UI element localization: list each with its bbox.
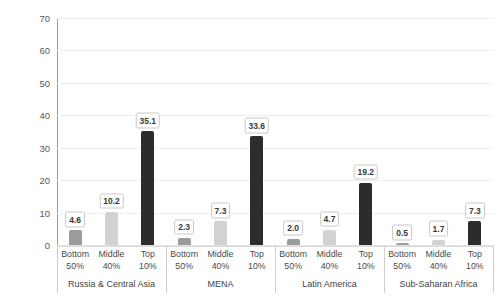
category-tick-line: 10% [357,261,375,273]
y-tick-label: 50 [16,77,50,88]
category-tick-line: Top [139,249,157,261]
category-tick-line: Top [466,249,484,261]
category-tick-label: Top10% [139,249,157,272]
bar-value-label: 1.7 [429,221,449,237]
category-tick-line: Middle [208,249,234,261]
category-tick-label: Top10% [466,249,484,272]
category-tick-line: 50% [170,261,198,273]
bar [69,230,82,245]
category-tick-label: Top10% [248,249,266,272]
y-tick-label: 40 [16,110,50,121]
group-label: Sub-Saharan Africa [399,279,477,289]
group-label: Russia & Central Asia [68,279,155,289]
bar-value-label: 4.7 [320,211,340,227]
category-tick-line: 10% [248,261,266,273]
group-label: MENA [207,279,233,289]
category-tick-label: Middle40% [426,249,452,272]
bar [359,183,372,245]
category-tick-line: 50% [388,261,416,273]
category-tick-label: Bottom50% [388,249,416,272]
bar-value-label: 7.3 [465,203,485,219]
category-tick-line: 40% [317,261,343,273]
category-tick-line: 10% [139,261,157,273]
category-tick-label: Middle40% [208,249,234,272]
category-tick-line: 50% [279,261,307,273]
bar [250,136,263,245]
category-tick-label: Bottom50% [279,249,307,272]
bar-value-label: 10.2 [99,193,124,209]
bar-value-label: 2.3 [174,219,194,235]
group-separator [166,246,167,293]
category-tick-line: Middle [426,249,452,261]
category-tick-label: Bottom50% [61,249,89,272]
category-axis: Bottom50%Middle40%Top10%Russia & Central… [57,246,493,306]
bar [287,239,300,245]
bar [214,221,227,245]
category-tick-label: Middle40% [99,249,125,272]
bar [396,243,409,245]
category-tick-line: 10% [466,261,484,273]
category-tick-label: Top10% [357,249,375,272]
bar [105,212,118,245]
bar [141,131,154,245]
bar-value-label: 19.2 [354,164,379,180]
category-tick-line: Bottom [388,249,416,261]
y-axis-ticks: 010203040506070 [14,18,50,245]
category-tick-label: Bottom50% [170,249,198,272]
group-separator-edge [493,246,494,293]
category-tick-line: Bottom [61,249,89,261]
bar-value-label: 0.5 [392,225,412,241]
bar-value-label: 7.3 [211,203,231,219]
category-tick-label: Middle40% [317,249,343,272]
bar-value-label: 4.6 [65,212,85,228]
category-tick-line: Bottom [170,249,198,261]
bars-layer: 4.610.235.12.37.333.62.04.719.20.51.77.3 [57,18,493,245]
category-tick-line: Bottom [279,249,307,261]
y-tick-label: 60 [16,45,50,56]
category-tick-line: 40% [99,261,125,273]
bar-value-label: 33.6 [245,118,270,134]
category-tick-line: Top [357,249,375,261]
y-tick-label: 70 [16,13,50,24]
group-separator-edge [57,246,58,293]
bar-chart: Tonnes of CO2e per year per person 01020… [0,0,500,306]
group-separator [275,246,276,293]
group-label: Latin America [302,279,357,289]
group-separator [384,246,385,293]
category-tick-line: 40% [426,261,452,273]
y-tick-label: 0 [16,240,50,251]
bar [178,238,191,245]
category-tick-line: Middle [99,249,125,261]
bar-value-label: 2.0 [283,220,303,236]
bar [432,240,445,246]
bar [468,221,481,245]
bar-value-label: 35.1 [136,113,161,129]
y-tick-label: 10 [16,207,50,218]
y-tick-label: 30 [16,142,50,153]
bar [323,230,336,245]
category-tick-line: 50% [61,261,89,273]
category-tick-line: 40% [208,261,234,273]
category-tick-line: Top [248,249,266,261]
category-tick-line: Middle [317,249,343,261]
y-tick-label: 20 [16,175,50,186]
